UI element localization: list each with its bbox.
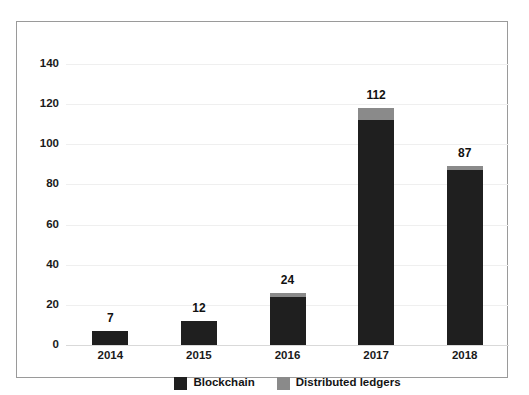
plot-area: 7122411287 <box>66 64 509 345</box>
bar-segment-blockchain[interactable] <box>92 331 128 345</box>
chart-frame: 020406080100120140 7122411287 2014201520… <box>16 21 508 378</box>
bar-group-2015[interactable]: 12 <box>181 64 217 345</box>
bar-group-2016[interactable]: 24 <box>270 64 306 345</box>
legend-entry-distributed-ledgers[interactable]: Distributed ledgers <box>277 377 401 390</box>
legend-label: Distributed ledgers <box>296 377 401 389</box>
y-tick-label: 120 <box>40 98 59 110</box>
x-tick-label-2014: 2014 <box>98 350 124 362</box>
x-tick-label-2016: 2016 <box>275 350 301 362</box>
bar-segment-distributed-ledgers[interactable] <box>358 108 394 120</box>
y-tick-label: 60 <box>46 219 59 231</box>
bar-segment-blockchain[interactable] <box>181 321 217 345</box>
bar-segment-blockchain[interactable] <box>358 120 394 345</box>
x-tick-label-2018: 2018 <box>452 350 478 362</box>
y-tick-label: 0 <box>53 339 59 351</box>
x-axis: 20142015201620172018 <box>66 350 509 368</box>
bar-segment-blockchain[interactable] <box>270 297 306 345</box>
bar-stack <box>92 331 128 345</box>
bar-segment-blockchain[interactable] <box>447 170 483 345</box>
y-tick-label: 80 <box>46 179 59 191</box>
gridline-0 <box>66 345 509 346</box>
bar-stack <box>270 293 306 345</box>
legend-swatch-icon <box>277 377 290 390</box>
legend-label: Blockchain <box>193 377 254 389</box>
bar-stack <box>358 108 394 345</box>
y-tick-label: 140 <box>40 58 59 70</box>
y-tick-label: 100 <box>40 139 59 151</box>
bar-group-2014[interactable]: 7 <box>92 64 128 345</box>
bar-value-label: 87 <box>458 147 471 159</box>
chart-figure: 020406080100120140 7122411287 2014201520… <box>0 0 529 395</box>
x-tick-label-2015: 2015 <box>186 350 212 362</box>
legend-swatch-icon <box>174 377 187 390</box>
bar-value-label: 12 <box>192 302 205 314</box>
legend-entry-blockchain[interactable]: Blockchain <box>174 377 254 390</box>
x-tick-label-2017: 2017 <box>363 350 389 362</box>
chart-legend: BlockchainDistributed ledgers <box>66 374 509 392</box>
y-tick-label: 40 <box>46 259 59 271</box>
bar-value-label: 112 <box>366 89 385 101</box>
bar-value-label: 7 <box>107 312 114 324</box>
y-axis: 020406080100120140 <box>31 64 59 345</box>
bar-group-2018[interactable]: 87 <box>447 64 483 345</box>
bar-group-2017[interactable]: 112 <box>358 64 394 345</box>
y-tick-label: 20 <box>46 299 59 311</box>
bar-value-label: 24 <box>281 274 294 286</box>
bar-stack <box>181 321 217 345</box>
bar-stack <box>447 166 483 345</box>
